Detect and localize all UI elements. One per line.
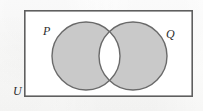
set-label-p: P	[43, 25, 50, 37]
set-label-q: Q	[166, 28, 175, 40]
venn-diagram-figure: P Q U	[0, 0, 203, 111]
universal-set-label-u: U	[13, 85, 22, 97]
venn-diagram-canvas	[0, 0, 203, 111]
